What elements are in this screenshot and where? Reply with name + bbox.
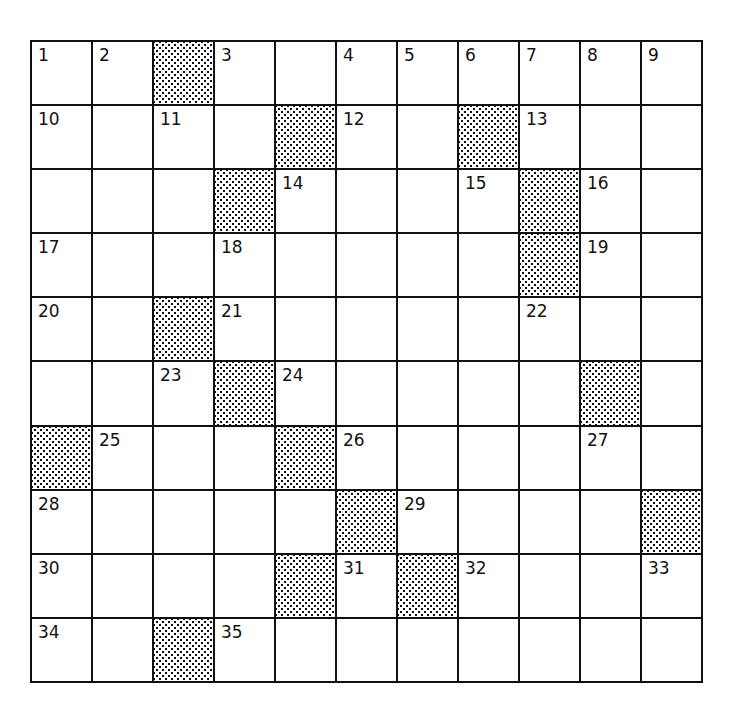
shaded-block-cell: [459, 106, 518, 168]
grid-cell[interactable]: 33: [642, 555, 701, 617]
grid-cell[interactable]: 5: [398, 42, 457, 104]
grid-cell[interactable]: 22: [520, 298, 579, 360]
grid-cell[interactable]: 18: [215, 234, 274, 296]
shaded-block-cell: [276, 555, 335, 617]
grid-cell[interactable]: 13: [520, 106, 579, 168]
grid-cell[interactable]: 21: [215, 298, 274, 360]
grid-cell[interactable]: [642, 619, 701, 681]
grid-cell[interactable]: [32, 170, 91, 232]
grid-cell[interactable]: 32: [459, 555, 518, 617]
grid-cell[interactable]: [93, 234, 152, 296]
grid-cell[interactable]: [642, 106, 701, 168]
grid-cell[interactable]: 31: [337, 555, 396, 617]
grid-cell[interactable]: 11: [154, 106, 213, 168]
grid-cell[interactable]: [215, 106, 274, 168]
grid-cell[interactable]: 14: [276, 170, 335, 232]
grid-cell[interactable]: [93, 619, 152, 681]
grid-cell[interactable]: [276, 491, 335, 553]
grid-cell[interactable]: [642, 427, 701, 489]
grid-cell[interactable]: [520, 491, 579, 553]
grid-cell[interactable]: 26: [337, 427, 396, 489]
grid-cell[interactable]: [581, 619, 640, 681]
grid-cell[interactable]: [337, 170, 396, 232]
grid-cell[interactable]: 16: [581, 170, 640, 232]
grid-cell[interactable]: 4: [337, 42, 396, 104]
grid-cell[interactable]: 15: [459, 170, 518, 232]
grid-cell[interactable]: [337, 362, 396, 424]
grid-cell[interactable]: [459, 619, 518, 681]
grid-cell[interactable]: 12: [337, 106, 396, 168]
grid-cell[interactable]: 28: [32, 491, 91, 553]
grid-cell[interactable]: [459, 491, 518, 553]
grid-cell[interactable]: 10: [32, 106, 91, 168]
grid-cell[interactable]: [459, 362, 518, 424]
clue-number: 30: [38, 560, 60, 577]
grid-cell[interactable]: 2: [93, 42, 152, 104]
grid-cell[interactable]: 6: [459, 42, 518, 104]
grid-cell[interactable]: [32, 362, 91, 424]
grid-cell[interactable]: [581, 298, 640, 360]
grid-cell[interactable]: 27: [581, 427, 640, 489]
grid-cell[interactable]: [642, 234, 701, 296]
grid-cell[interactable]: [642, 170, 701, 232]
clue-number: 25: [99, 432, 121, 449]
grid-cell[interactable]: 3: [215, 42, 274, 104]
grid-cell[interactable]: [398, 427, 457, 489]
grid-cell[interactable]: [93, 106, 152, 168]
grid-cell[interactable]: [642, 298, 701, 360]
grid-cell[interactable]: 29: [398, 491, 457, 553]
grid-cell[interactable]: [215, 427, 274, 489]
grid-cell[interactable]: [93, 298, 152, 360]
grid-cell[interactable]: [459, 427, 518, 489]
grid-cell[interactable]: [459, 298, 518, 360]
grid-cell[interactable]: 9: [642, 42, 701, 104]
grid-cell[interactable]: 23: [154, 362, 213, 424]
grid-cell[interactable]: [398, 298, 457, 360]
grid-cell[interactable]: [276, 298, 335, 360]
grid-cell[interactable]: [520, 427, 579, 489]
shaded-block-cell: [154, 619, 213, 681]
grid-cell[interactable]: 25: [93, 427, 152, 489]
grid-cell[interactable]: [276, 619, 335, 681]
shaded-block-cell: [276, 427, 335, 489]
grid-cell[interactable]: 7: [520, 42, 579, 104]
grid-cell[interactable]: 8: [581, 42, 640, 104]
grid-cell[interactable]: [337, 619, 396, 681]
grid-cell[interactable]: [398, 170, 457, 232]
grid-cell[interactable]: 1: [32, 42, 91, 104]
grid-cell[interactable]: [154, 170, 213, 232]
grid-cell[interactable]: 24: [276, 362, 335, 424]
grid-cell[interactable]: 20: [32, 298, 91, 360]
grid-cell[interactable]: [398, 619, 457, 681]
grid-cell[interactable]: [642, 362, 701, 424]
grid-cell[interactable]: 34: [32, 619, 91, 681]
grid-cell[interactable]: [93, 491, 152, 553]
grid-cell[interactable]: [520, 619, 579, 681]
grid-cell[interactable]: [215, 491, 274, 553]
grid-cell[interactable]: [520, 555, 579, 617]
grid-cell[interactable]: [398, 234, 457, 296]
grid-cell[interactable]: [93, 362, 152, 424]
grid-cell[interactable]: [276, 42, 335, 104]
grid-cell[interactable]: [93, 170, 152, 232]
grid-cell[interactable]: [276, 234, 335, 296]
grid-cell[interactable]: [154, 491, 213, 553]
grid-cell[interactable]: [154, 234, 213, 296]
grid-cell[interactable]: [398, 362, 457, 424]
grid-cell[interactable]: [337, 298, 396, 360]
grid-cell[interactable]: [215, 555, 274, 617]
grid-cell[interactable]: [581, 555, 640, 617]
grid-cell[interactable]: 19: [581, 234, 640, 296]
grid-cell[interactable]: [337, 234, 396, 296]
grid-cell[interactable]: [154, 555, 213, 617]
grid-cell[interactable]: [398, 106, 457, 168]
grid-cell[interactable]: [93, 555, 152, 617]
grid-cell[interactable]: [459, 234, 518, 296]
grid-cell[interactable]: 30: [32, 555, 91, 617]
grid-cell[interactable]: 17: [32, 234, 91, 296]
grid-cell[interactable]: [154, 427, 213, 489]
grid-cell[interactable]: [581, 491, 640, 553]
grid-cell[interactable]: [581, 106, 640, 168]
grid-cell[interactable]: [520, 362, 579, 424]
grid-cell[interactable]: 35: [215, 619, 274, 681]
